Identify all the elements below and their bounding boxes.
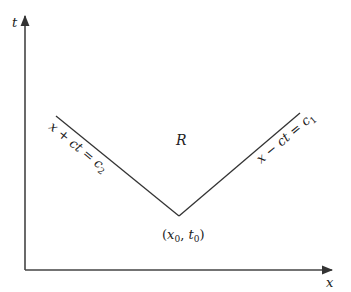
right-line-label: x − ct = c1 [253,109,318,168]
region-label: R [175,132,187,148]
x-axis-label: x [326,275,334,290]
characteristics-diagram: t x R (x0, t0) x + ct = c2 x − ct = c1 [0,0,351,292]
left-line-label: x + ct = c2 [45,119,111,177]
right-characteristic-line [179,113,300,216]
t-axis-label: t [12,15,18,30]
left-characteristic-line [56,116,179,216]
vertex-label: (x0, t0) [162,227,204,244]
